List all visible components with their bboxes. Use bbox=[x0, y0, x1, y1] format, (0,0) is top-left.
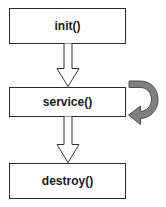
servlet-lifecycle-diagram: init() service() destroy() bbox=[0, 0, 166, 207]
node-service[interactable]: service() bbox=[9, 87, 126, 117]
arrow-service-to-destroy bbox=[52, 116, 84, 164]
node-destroy-label: destroy() bbox=[42, 175, 93, 187]
node-init-label: init() bbox=[55, 20, 81, 32]
node-init[interactable]: init() bbox=[9, 8, 126, 44]
arrow-init-to-service bbox=[52, 43, 84, 88]
node-service-label: service() bbox=[43, 96, 92, 108]
node-destroy[interactable]: destroy() bbox=[9, 163, 126, 199]
self-loop-arrow-icon bbox=[127, 78, 165, 126]
